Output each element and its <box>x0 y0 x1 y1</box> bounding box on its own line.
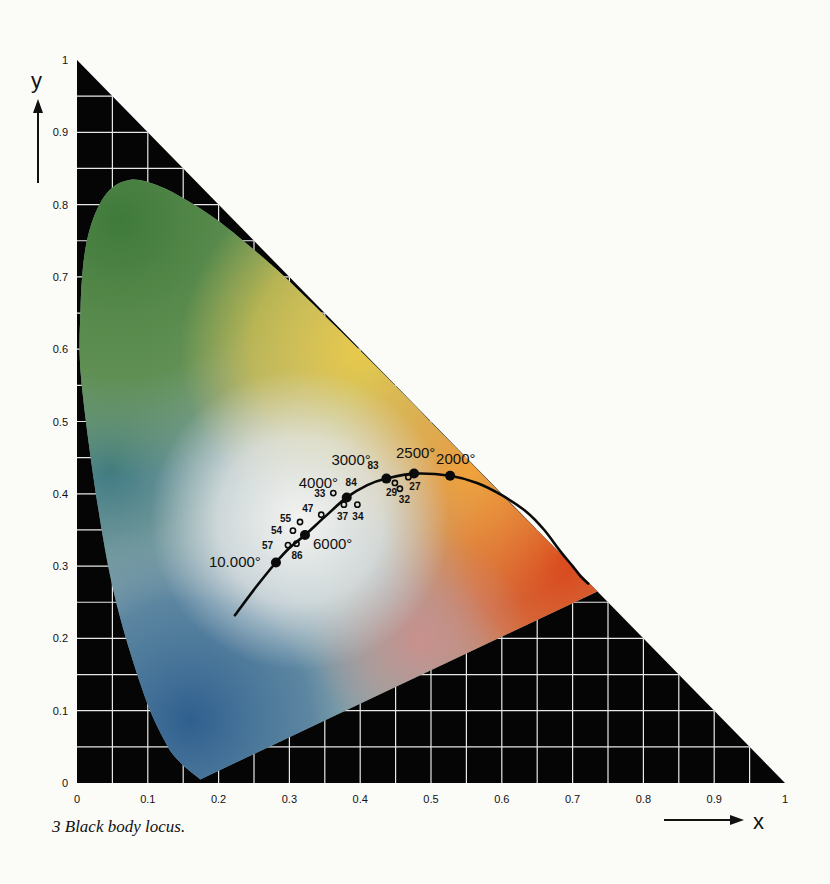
x-tick-label: 0.6 <box>494 793 509 805</box>
temperature-dot <box>271 557 281 567</box>
y-tick-label: 0.7 <box>53 271 68 283</box>
y-tick-label: 0.5 <box>53 416 68 428</box>
sample-label: 83 <box>368 460 380 471</box>
temperature-dot <box>342 492 352 502</box>
sample-label: 32 <box>399 494 411 505</box>
sample-label: 27 <box>409 481 421 492</box>
x-tick-label: 0.7 <box>565 793 580 805</box>
y-tick-label: 0.3 <box>53 560 68 572</box>
y-axis-ticks: 00.10.20.30.40.50.60.70.80.91 <box>53 54 68 789</box>
x-tick-label: 0.8 <box>636 793 651 805</box>
x-axis-ticks: 00.10.20.30.40.50.60.70.80.91 <box>74 793 788 805</box>
sample-label: 47 <box>302 503 314 514</box>
sample-label: 57 <box>262 540 274 551</box>
x-tick-label: 0.2 <box>211 793 226 805</box>
x-tick-label: 0.5 <box>423 793 438 805</box>
x-axis-arrow-icon <box>664 815 744 825</box>
y-axis-arrow-icon <box>33 99 43 183</box>
sample-label: 54 <box>271 525 283 536</box>
temperature-label: 2500° <box>396 444 435 461</box>
y-tick-label: 0.4 <box>53 488 68 500</box>
figure-caption: 3 Black body locus. <box>52 817 185 837</box>
sample-label: 29 <box>386 487 398 498</box>
y-tick-label: 0.8 <box>53 199 68 211</box>
temperature-dot <box>381 474 391 484</box>
x-tick-label: 0 <box>74 793 80 805</box>
temperature-label: 2000° <box>436 450 475 467</box>
temperature-label: 10.000° <box>209 553 261 570</box>
y-tick-label: 0.1 <box>53 705 68 717</box>
y-tick-label: 0.6 <box>53 343 68 355</box>
temperature-label: 3000° <box>331 451 370 468</box>
sample-label: 86 <box>291 550 303 561</box>
x-tick-label: 1 <box>782 793 788 805</box>
x-axis-label: x <box>753 809 764 834</box>
x-tick-label: 0.9 <box>707 793 722 805</box>
sample-label: 84 <box>346 477 358 488</box>
chromaticity-diagram: 10.000°6000°4000°3000°2500°2000° 5786545… <box>0 0 830 884</box>
y-axis-label: y <box>31 68 42 93</box>
sample-label: 55 <box>280 513 292 524</box>
temperature-dot <box>300 530 310 540</box>
x-tick-label: 0.4 <box>353 793 368 805</box>
x-tick-label: 0.3 <box>282 793 297 805</box>
y-tick-label: 0.2 <box>53 632 68 644</box>
sample-label: 34 <box>352 511 364 522</box>
temperature-label: 6000° <box>313 535 352 552</box>
y-tick-label: 0 <box>62 777 68 789</box>
y-tick-label: 1 <box>62 54 68 66</box>
temperature-dot <box>445 471 455 481</box>
y-tick-label: 0.9 <box>53 126 68 138</box>
x-tick-label: 0.1 <box>140 793 155 805</box>
sample-label: 37 <box>337 511 349 522</box>
sample-label: 33 <box>314 488 326 499</box>
